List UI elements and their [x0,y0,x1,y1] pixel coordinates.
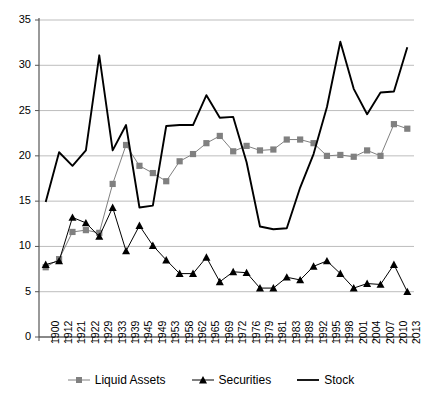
data-point [68,213,76,220]
legend-item[interactable]: Securities [192,374,272,386]
series-line [46,124,408,267]
legend-item[interactable]: Liquid Assets [68,374,166,386]
legend-label: Liquid Assets [95,374,166,386]
data-point [177,158,183,164]
x-tick-label: 1949 [157,321,167,344]
y-tick-label: 0 [5,331,31,342]
data-point [110,181,116,187]
data-point [391,121,397,127]
data-point [163,178,169,184]
data-point [190,151,196,157]
x-tick-label: 1998 [344,321,354,344]
series-liquid-assets [43,121,411,270]
legend-label: Securities [219,374,272,386]
data-point [390,261,398,268]
x-tick-label: 1981 [277,321,287,344]
x-tick-label: 1933 [117,321,127,344]
x-tick-label: 2010 [398,321,408,344]
data-point [377,153,383,159]
chart-container: 05101520253035 1900191219211922192919331… [0,0,422,402]
x-tick-label: 1989 [304,321,314,344]
y-tick-label: 15 [5,195,31,206]
data-point [310,262,318,269]
data-point [203,140,209,146]
data-point [69,229,75,235]
x-tick-label: 2007 [385,321,395,344]
data-point [150,170,156,176]
data-point [82,219,90,226]
data-point [217,133,223,139]
data-point [230,148,236,154]
y-tick-label: 25 [5,105,31,116]
data-point [337,152,343,158]
chart-legend: Liquid AssetsSecuritiesStock [0,374,422,386]
x-tick-label: 1962 [197,321,207,344]
data-point [136,163,142,169]
data-point [216,278,224,285]
data-point [83,227,89,233]
data-point [404,126,410,132]
x-tick-label: 1995 [331,321,341,344]
x-tick-label: 1900 [50,321,60,344]
x-tick-label: 1922 [90,321,100,344]
legend-line-icon [297,374,319,386]
data-point [122,247,130,254]
data-point [135,222,143,229]
x-tick-label: 2004 [371,321,381,344]
series-securities [42,203,412,295]
series-line [46,207,408,291]
y-tick-label: 30 [5,59,31,70]
x-tick-label: 1939 [130,321,140,344]
data-point [364,147,370,153]
data-point [270,146,276,152]
data-point [149,242,157,249]
legend-label: Stock [324,374,354,386]
x-tick-label: 1953 [170,321,180,344]
y-tick-label: 35 [5,14,31,25]
data-point [283,273,291,280]
data-point [297,136,303,142]
legend-triangle-icon [192,374,214,386]
data-point [323,257,331,264]
x-tick-label: 1992 [318,321,328,344]
x-tick-label: 1972 [237,321,247,344]
x-tick-label: 1979 [264,321,274,344]
data-point [243,143,249,149]
x-tick-label: 1965 [210,321,220,344]
x-tick-label: 2013 [411,321,421,344]
x-tick-label: 1969 [224,321,234,344]
data-point [109,203,117,210]
y-tick-label: 10 [5,240,31,251]
data-point [257,147,263,153]
x-tick-label: 1929 [103,321,113,344]
x-tick-label: 1912 [63,321,73,344]
x-tick-label: 1958 [184,321,194,344]
x-tick-label: 1976 [251,321,261,344]
data-point [351,154,357,160]
x-tick-label: 1945 [143,321,153,344]
y-tick-label: 20 [5,150,31,161]
data-point [202,253,210,260]
data-point [324,153,330,159]
legend-marker [76,377,82,383]
legend-square-icon [68,374,90,386]
y-tick-label: 5 [5,286,31,297]
x-tick-label: 1983 [291,321,301,344]
data-point [284,136,290,142]
x-tick-label: 1921 [76,321,86,344]
legend-item[interactable]: Stock [297,374,354,386]
x-tick-label: 2001 [358,321,368,344]
